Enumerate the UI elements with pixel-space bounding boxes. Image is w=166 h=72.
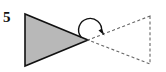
rotation-diagram [0,0,166,72]
preimage-triangle [25,14,88,66]
rotation-arrowhead-icon [99,29,105,36]
figure-container: 5 [0,0,166,72]
image-triangle [88,16,150,64]
rotation-arc-icon [79,18,102,37]
